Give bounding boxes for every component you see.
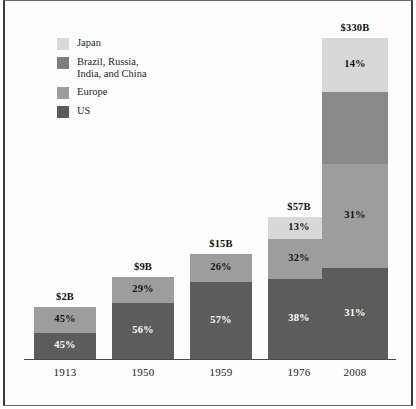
bar-segment-label: 45%	[34, 313, 96, 324]
bar-group: $57B13%32%38%	[268, 14, 330, 359]
bar-stack: 29%56%	[112, 277, 174, 359]
x-axis-tick-1976: 1976	[268, 366, 330, 378]
bar-stack: 45%45%	[34, 307, 96, 359]
bar-stack: 14%31%31%	[322, 38, 388, 359]
bar-stack: 26%57%	[190, 254, 252, 359]
bar-segment-label: 38%	[268, 312, 330, 323]
bar-segment: 56%	[112, 303, 174, 359]
bar-group: $9B29%56%	[112, 14, 174, 359]
bar-segment-label: 14%	[322, 58, 388, 69]
bar-segment: 32%	[268, 239, 330, 279]
bar-segment: 45%	[34, 333, 96, 359]
bar-segment-label: 26%	[190, 261, 252, 272]
x-axis-tick-1950: 1950	[112, 366, 174, 378]
bar-segment: 45%	[34, 307, 96, 333]
plot-area: $2B45%45%$9B29%56%$15B26%57%$57B13%32%38…	[24, 14, 396, 359]
bar-segment: 13%	[268, 217, 330, 239]
bar-total-label: $9B	[112, 261, 174, 272]
bar-segment-label: 45%	[34, 339, 96, 350]
bar-segment-label: 31%	[322, 209, 388, 220]
bar-segment-label: 13%	[268, 221, 330, 232]
bar-segment-label: 31%	[322, 307, 388, 318]
bar-segment-label: 56%	[112, 324, 174, 335]
bar-total-label: $330B	[322, 22, 388, 33]
bar-segment: 57%	[190, 282, 252, 359]
bar-segment: 14%	[322, 38, 388, 92]
bar-segment: 26%	[190, 254, 252, 282]
bar-segment-label: 57%	[190, 314, 252, 325]
bar-group: $15B26%57%	[190, 14, 252, 359]
bar-total-label: $57B	[268, 201, 330, 212]
x-axis-tick-1913: 1913	[34, 366, 96, 378]
x-axis-line	[24, 359, 396, 360]
x-axis-tick-1959: 1959	[190, 366, 252, 378]
bar-stack: 13%32%38%	[268, 217, 330, 359]
bar-segment: 29%	[112, 277, 174, 303]
bar-group: $330B14%31%31%	[322, 14, 388, 359]
bar-segment: 31%	[322, 164, 388, 268]
bar-segment-label: 32%	[268, 252, 330, 263]
bar-group: $2B45%45%	[34, 14, 96, 359]
bar-segment	[322, 92, 388, 164]
chart-canvas: JapanBrazil, Russia, India, and ChinaEur…	[0, 0, 416, 409]
bar-segment-label: 29%	[112, 283, 174, 294]
bar-total-label: $15B	[190, 238, 252, 249]
bar-total-label: $2B	[34, 291, 96, 302]
bar-segment: 38%	[268, 279, 330, 359]
x-axis-tick-2008: 2008	[322, 366, 388, 378]
bar-segment: 31%	[322, 268, 388, 359]
